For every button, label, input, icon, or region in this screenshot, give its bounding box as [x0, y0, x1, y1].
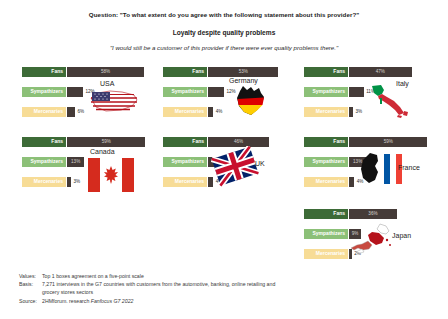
france-flag: [358, 150, 402, 190]
bar-fans: 53%: [208, 67, 278, 77]
country-name-japan: Japan: [392, 232, 411, 239]
bar-mercenaries: [67, 107, 75, 117]
country-panel-germany: Fans53%Sympathizers12%Mercenaries4% Germ…: [155, 64, 296, 134]
category-label-sympathizers: Sympathizers: [163, 87, 207, 97]
category-label-sympathizers: Sympathizers: [304, 157, 348, 167]
category-label-sympathizers: Sympathizers: [22, 157, 66, 167]
uk-flag: [211, 146, 261, 192]
bar-value: 3%: [73, 177, 80, 187]
footnote-values-key: Values:: [19, 272, 42, 280]
bar-row: Fans59%: [304, 137, 437, 147]
bar-row: Mercenaries4%: [163, 107, 296, 117]
bar-sympathizers: [67, 87, 83, 97]
bar-row: Sympathizers12%: [163, 87, 296, 97]
page-header: Question: "To what extent do you agree w…: [0, 0, 448, 51]
category-label-fans: Fans: [22, 67, 66, 77]
bar-sympathizers: [349, 87, 364, 97]
bar-fans: 59%: [67, 137, 145, 147]
country-name-usa: USA: [100, 80, 114, 87]
bar-row: Fans58%: [22, 67, 155, 77]
country-name-canada: Canada: [90, 148, 115, 155]
bar-value: 36%: [349, 209, 397, 219]
bar-fans: 59%: [349, 137, 427, 147]
country-panel-grid: Fans58%Sympathizers12%Mercenaries6% USAF…: [14, 64, 438, 278]
country-panel-italy: Fans47%Sympathizers11%Mercenaries3% Ital…: [296, 64, 437, 134]
country-name-italy: Italy: [396, 80, 409, 87]
footnote-basis-text2: grocery stores sectors: [19, 288, 439, 296]
bar-mercenaries: [349, 177, 354, 187]
japan-flag: [342, 220, 404, 260]
country-name-france: France: [398, 164, 420, 171]
canada-flag: [88, 158, 134, 192]
grid-spacer: [14, 206, 155, 209]
source-org: 2HMforum. research: [42, 298, 91, 304]
bar-fans: 47%: [349, 67, 412, 77]
country-panel-uk: Fans46%Sympathizers16%Mercenaries4% UK: [155, 134, 296, 206]
country-name-uk: UK: [255, 160, 265, 167]
source-study: Fanfocus G7 2022: [91, 298, 134, 304]
footer-notes: Values: Top 1 boxes agreement on a five-…: [19, 272, 439, 305]
bar-value: 6%: [77, 107, 84, 117]
category-label-fans: Fans: [163, 137, 207, 147]
bar-mercenaries: [67, 177, 71, 187]
category-label-fans: Fans: [304, 209, 348, 219]
category-label-mercenaries: Mercenaries: [304, 107, 348, 117]
footnote-basis-key: Basis:: [19, 280, 42, 288]
category-label-fans: Fans: [304, 67, 348, 77]
bar-value: 53%: [208, 67, 278, 77]
bar-value: 59%: [67, 137, 145, 147]
page-title: Loyalty despite quality problems: [0, 29, 448, 36]
bar-value: 58%: [67, 67, 144, 77]
category-label-mercenaries: Mercenaries: [163, 107, 207, 117]
footnote-values: Values: Top 1 boxes agreement on a five-…: [19, 272, 439, 280]
category-label-mercenaries: Mercenaries: [22, 107, 66, 117]
usa-flag: [88, 86, 140, 116]
category-label-sympathizers: Sympathizers: [163, 157, 207, 167]
footnote-source-text: 2HMforum. research Fanfocus G7 2022: [42, 297, 439, 305]
country-panel-france: Fans59%Sympathizers13%Mercenaries4% Fran…: [296, 134, 437, 206]
bar-fans: 58%: [67, 67, 144, 77]
footnote-basis: Basis: 7,271 interviews in the G7 countr…: [19, 280, 439, 288]
category-label-mercenaries: Mercenaries: [304, 177, 348, 187]
germany-flag: [233, 84, 269, 118]
survey-question: Question: "To what extent do you agree w…: [0, 11, 448, 18]
footnote-basis-text: 7,271 interviews in the G7 countries wit…: [42, 280, 439, 288]
category-label-fans: Fans: [22, 137, 66, 147]
bar-value: 4%: [216, 107, 223, 117]
category-label-sympathizers: Sympathizers: [304, 87, 348, 97]
category-label-mercenaries: Mercenaries: [22, 177, 66, 187]
category-label-sympathizers: Sympathizers: [22, 87, 66, 97]
bar-mercenaries: [208, 107, 213, 117]
footnote-values-text: Top 1 boxes agreement on a five-point sc…: [42, 272, 439, 280]
category-label-fans: Fans: [304, 137, 348, 147]
bar-fans: 36%: [349, 209, 397, 219]
bar-mercenaries: [349, 107, 353, 117]
footnote-source: Source: 2HMforum. research Fanfocus G7 2…: [19, 297, 439, 305]
bar-row: Fans36%: [304, 209, 437, 219]
country-panel-japan: Fans36%Sympathizers9%Mercenaries2% Japan: [296, 206, 437, 278]
survey-statement: "I would still be a customer of this pro…: [0, 44, 448, 51]
bar-sympathizers: [208, 87, 224, 97]
category-label-mercenaries: Mercenaries: [163, 177, 207, 187]
country-panel-canada: Fans59%Sympathizers13%Mercenaries3% Cana…: [14, 134, 155, 206]
country-panel-usa: Fans58%Sympathizers12%Mercenaries6% USA: [14, 64, 155, 134]
category-label-fans: Fans: [163, 67, 207, 77]
bar-row: Fans59%: [22, 137, 155, 147]
bar-sympathizers: 13%: [67, 157, 84, 167]
footnote-source-key: Source:: [19, 297, 42, 305]
italy-flag: [368, 82, 410, 118]
country-name-germany: Germany: [229, 77, 258, 84]
bar-row: Fans47%: [304, 67, 437, 77]
bar-value: 3%: [355, 107, 362, 117]
bar-value: 59%: [349, 137, 427, 147]
bar-value: 13%: [67, 157, 84, 167]
bar-row: Fans53%: [163, 67, 296, 77]
bar-value: 47%: [349, 67, 412, 77]
